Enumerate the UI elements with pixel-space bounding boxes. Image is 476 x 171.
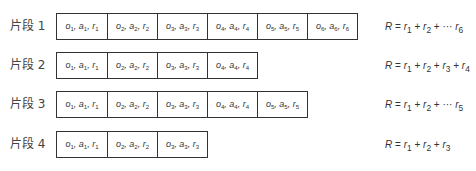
episode-label: 片段 3 [10, 91, 45, 118]
step-cell: o1, a1, r1 [57, 92, 107, 117]
return-formula: R = r1 + r2 + r3 [385, 131, 450, 158]
step-cell: o3, a3, r3 [157, 132, 207, 157]
episode-row: 片段 2o1, a1, r1o2, a2, r2o3, a3, r3o4, a4… [0, 52, 476, 79]
return-formula: R = r1 + r2 + ··· r5 [385, 91, 463, 118]
step-cell: o3, a3, r3 [157, 92, 207, 117]
step-cell: o4, a4, r4 [207, 53, 257, 78]
step-cell: o1, a1, r1 [57, 14, 107, 39]
episode-row: 片段 1o1, a1, r1o2, a2, r2o3, a3, r3o4, a4… [0, 13, 476, 40]
trajectory-sequence: o1, a1, r1o2, a2, r2o3, a3, r3 [56, 131, 208, 158]
step-cell: o1, a1, r1 [57, 53, 107, 78]
step-cell: o6, a6, r6 [307, 14, 357, 39]
step-cell: o2, a2, r2 [107, 132, 157, 157]
step-cell: o3, a3, r3 [157, 53, 207, 78]
return-formula: R = r1 + r2 + ··· r6 [385, 13, 463, 40]
trajectory-sequence: o1, a1, r1o2, a2, r2o3, a3, r3o4, a4, r4 [56, 52, 258, 79]
step-cell: o2, a2, r2 [107, 14, 157, 39]
episode-label: 片段 4 [10, 131, 45, 158]
step-cell: o1, a1, r1 [57, 132, 107, 157]
step-cell: o5, a5, r5 [257, 14, 307, 39]
step-cell: o3, a3, r3 [157, 14, 207, 39]
step-cell: o2, a2, r2 [107, 92, 157, 117]
episode-label: 片段 2 [10, 52, 45, 79]
episode-row: 片段 3o1, a1, r1o2, a2, r2o3, a3, r3o4, a4… [0, 91, 476, 118]
step-cell: o4, a4, r4 [207, 92, 257, 117]
step-cell: o4, a4, r4 [207, 14, 257, 39]
trajectory-sequence: o1, a1, r1o2, a2, r2o3, a3, r3o4, a4, r4… [56, 91, 308, 118]
episode-label: 片段 1 [10, 13, 45, 40]
trajectory-sequence: o1, a1, r1o2, a2, r2o3, a3, r3o4, a4, r4… [56, 13, 358, 40]
step-cell: o5, a5, r5 [257, 92, 307, 117]
episode-row: 片段 4o1, a1, r1o2, a2, r2o3, a3, r3R = r1… [0, 131, 476, 158]
return-formula: R = r1 + r2 + r3 + r4 [385, 52, 470, 79]
step-cell: o2, a2, r2 [107, 53, 157, 78]
